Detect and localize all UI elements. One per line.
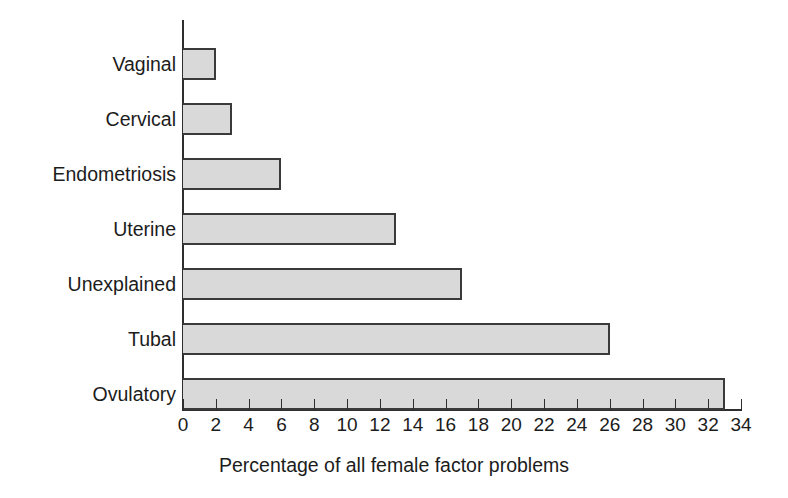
bar-chart: VaginalCervicalEndometriosisUterineUnexp… <box>0 0 788 498</box>
bar <box>183 323 610 355</box>
x-axis-tick-label: 8 <box>309 413 320 437</box>
x-axis-tick-label: 20 <box>501 413 522 437</box>
x-axis-tick <box>380 399 381 410</box>
x-axis-tick <box>249 399 250 410</box>
x-axis-tick <box>413 399 414 410</box>
x-axis-tick <box>446 399 447 410</box>
x-axis-tick-label: 32 <box>698 413 719 437</box>
x-axis-tick-label: 24 <box>566 413 587 437</box>
bar <box>183 268 462 300</box>
x-axis-tick <box>577 399 578 410</box>
category-label: Uterine <box>113 217 176 241</box>
x-axis-tick <box>281 399 282 410</box>
x-axis-tick-label: 28 <box>632 413 653 437</box>
x-axis-tick-label: 22 <box>533 413 554 437</box>
x-axis-tick <box>610 399 611 410</box>
category-label: Vaginal <box>112 52 176 76</box>
category-label: Cervical <box>106 107 176 131</box>
category-label: Endometriosis <box>52 162 176 186</box>
x-axis-tick-label: 34 <box>730 413 751 437</box>
x-axis-tick-label: 10 <box>337 413 358 437</box>
bar <box>183 213 396 245</box>
x-axis-tick-label: 4 <box>243 413 254 437</box>
category-label: Ovulatory <box>93 382 176 406</box>
x-axis-tick <box>183 399 184 410</box>
x-axis-tick <box>314 399 315 410</box>
x-axis-tick-label: 0 <box>178 413 189 437</box>
x-axis-tick-label: 14 <box>402 413 423 437</box>
plot-area: VaginalCervicalEndometriosisUterineUnexp… <box>0 0 788 498</box>
x-axis-tick-label: 16 <box>435 413 456 437</box>
x-axis-tick-label: 30 <box>665 413 686 437</box>
x-axis-tick-label: 18 <box>468 413 489 437</box>
x-axis-title: Percentage of all female factor problems <box>0 452 788 478</box>
x-axis-tick <box>478 399 479 410</box>
x-axis-tick <box>643 399 644 410</box>
x-axis-tick-label: 2 <box>211 413 222 437</box>
bar <box>183 158 281 190</box>
x-axis-tick-label: 12 <box>369 413 390 437</box>
x-axis-tick <box>675 399 676 410</box>
x-axis-tick <box>741 399 742 410</box>
x-axis-tick <box>216 399 217 410</box>
bar <box>183 103 232 135</box>
x-axis-tick <box>708 399 709 410</box>
bar <box>183 48 216 80</box>
x-axis-tick-label: 6 <box>276 413 287 437</box>
x-axis-tick <box>347 399 348 410</box>
category-label: Tubal <box>128 327 176 351</box>
category-label: Unexplained <box>68 272 176 296</box>
x-axis-tick-label: 26 <box>599 413 620 437</box>
x-axis-tick <box>511 399 512 410</box>
x-axis-tick <box>544 399 545 410</box>
